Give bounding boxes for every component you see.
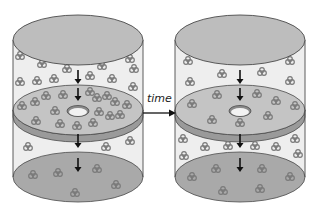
- diagram-canvas: time: [0, 0, 317, 214]
- pinhole: [231, 108, 249, 116]
- time-arrow: [143, 110, 176, 117]
- time-label: time: [147, 92, 172, 105]
- effusion-diagram: [0, 0, 317, 214]
- cylinder-before: [13, 15, 143, 202]
- cylinder-lid: [13, 15, 143, 65]
- cylinder-lid: [175, 15, 305, 65]
- cylinder-after: [175, 15, 305, 202]
- pinhole: [69, 108, 87, 116]
